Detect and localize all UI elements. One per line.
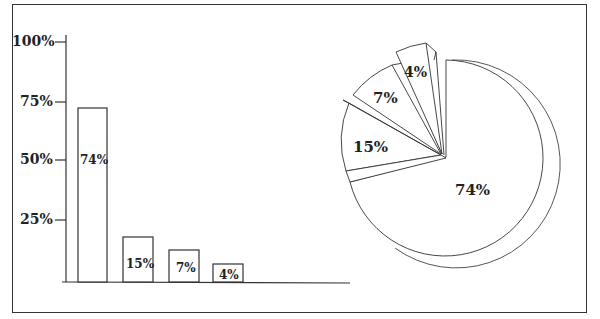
tick-25: 25% — [20, 211, 53, 227]
bar-74 — [78, 108, 107, 282]
bar-label-74: 74% — [80, 153, 109, 167]
pie-label-15: 15% — [353, 138, 388, 156]
tick-75: 75% — [20, 93, 53, 109]
pie-label-4: 4% — [404, 64, 427, 80]
bar-label-15: 15% — [126, 257, 155, 271]
tick-100: 100% — [12, 33, 55, 49]
tick-50: 50% — [20, 151, 53, 167]
bar-label-4: 4% — [219, 268, 239, 282]
pie-label-7: 7% — [373, 89, 398, 107]
chart-canvas: 100% 75% 50% 25% 74% 15% 7% 4% 74% 15% 7… — [0, 0, 600, 319]
bar-tick-labels: 100% 75% 50% 25% — [12, 33, 55, 227]
bar-label-7: 7% — [176, 261, 196, 275]
pie-label-74: 74% — [455, 181, 490, 199]
